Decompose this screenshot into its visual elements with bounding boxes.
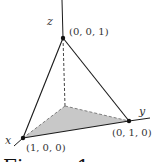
- vertex-label-x: (1, 0, 0): [26, 142, 66, 153]
- vertex-label-z: (0, 0, 1): [69, 26, 109, 37]
- hidden-z-edge: [63, 38, 65, 106]
- y-axis-label: y: [138, 105, 146, 118]
- z-axis-label: z: [46, 15, 53, 28]
- x-axis-label: x: [5, 134, 12, 147]
- figure-caption: Figure 1: [3, 155, 89, 162]
- vertex-label-y: (0, 1, 0): [112, 127, 152, 138]
- vertex-dot-x: [21, 136, 25, 140]
- vertex-dot-z: [61, 36, 65, 40]
- z-axis: [62, 0, 63, 38]
- vertex-dot-y: [127, 119, 131, 123]
- y-axis: [129, 118, 150, 121]
- tetrahedron-diagram: z x y (0, 0, 1) (1, 0, 0) (0, 1, 0) Figu…: [0, 0, 153, 162]
